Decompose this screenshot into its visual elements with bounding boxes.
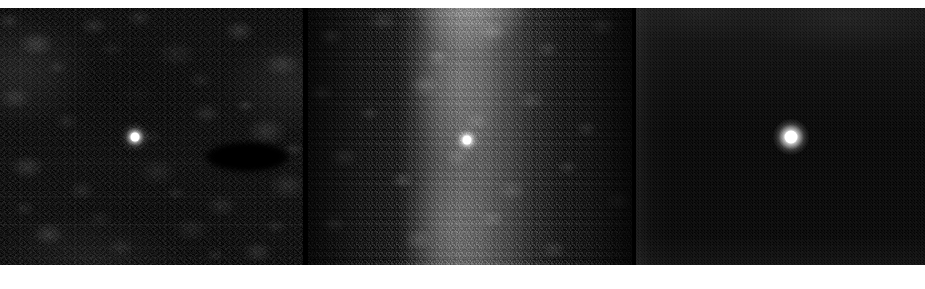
panel-left-point-source-core xyxy=(131,133,140,142)
panel-left[interactable] xyxy=(0,8,303,265)
panel-middle-point-source[interactable] xyxy=(453,126,481,154)
panel-left-noise-clump-layer xyxy=(0,8,303,265)
panel-left-haze-layer xyxy=(0,8,303,265)
panel-left-noise-fine-layer xyxy=(0,8,303,265)
panel-middle-point-source-core xyxy=(463,136,472,145)
panel-strip xyxy=(0,8,925,265)
panel-right[interactable] xyxy=(636,8,925,265)
panel-left-dark-center-region xyxy=(0,8,303,265)
figure-root xyxy=(0,0,925,289)
margin-top xyxy=(0,0,925,8)
panel-left-point-source[interactable] xyxy=(120,122,150,152)
margin-bottom xyxy=(0,265,925,289)
panel-right-point-source[interactable] xyxy=(773,119,809,155)
panel-middle[interactable] xyxy=(308,8,632,265)
panel-left-horizontal-streaks xyxy=(0,8,303,265)
panel-right-point-source-core xyxy=(785,131,798,144)
panel-left-noise-coarse-layer xyxy=(0,8,303,265)
panel-left-dark-ellipse-feature xyxy=(205,142,289,172)
